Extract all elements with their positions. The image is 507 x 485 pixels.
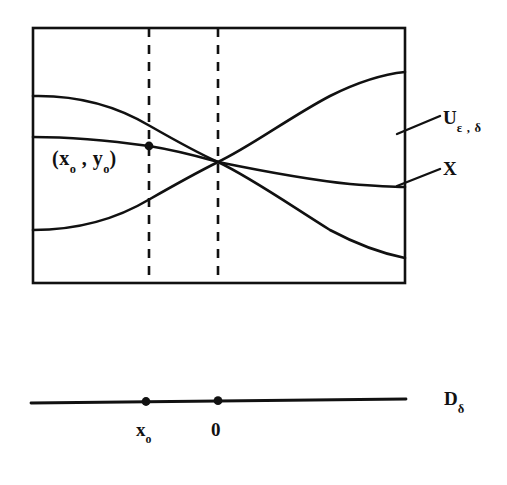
label-point-x0-y0: (xo , yo) bbox=[52, 148, 117, 172]
label-u-subscript: ε , δ bbox=[457, 121, 482, 135]
figure-container: (xo , yo) Uε , δ X Dδ xo 0 bbox=[0, 0, 507, 485]
label-d-base: D bbox=[444, 388, 458, 409]
label-point-x-sub: o bbox=[70, 162, 76, 176]
point-x0-y0 bbox=[145, 142, 154, 151]
axis-point-zero bbox=[214, 396, 223, 405]
label-point-y-base: y bbox=[93, 147, 104, 169]
label-u-epsilon-delta: Uε , δ bbox=[443, 108, 482, 131]
label-x-base: X bbox=[443, 158, 457, 179]
leader-line-u-eps-delta bbox=[397, 116, 440, 134]
label-axis-zero: 0 bbox=[211, 420, 221, 439]
figure-drawing bbox=[0, 0, 507, 485]
axis-point-x0 bbox=[142, 397, 151, 406]
label-x-curve: X bbox=[443, 159, 457, 178]
label-d-subscript: δ bbox=[458, 402, 465, 416]
label-axis-x0-base: x bbox=[136, 419, 146, 440]
label-point-y-sub: o bbox=[103, 162, 109, 176]
label-axis-x0-sub: o bbox=[146, 433, 152, 446]
label-point-comma: , bbox=[76, 147, 93, 169]
leader-line-x-curve bbox=[397, 169, 440, 186]
label-u-base: U bbox=[443, 107, 457, 128]
label-axis-zero-base: 0 bbox=[211, 419, 221, 440]
label-d-delta: Dδ bbox=[444, 389, 465, 412]
label-point-close-paren: ) bbox=[110, 147, 117, 169]
label-axis-x0: xo bbox=[136, 420, 152, 444]
label-point-x-base: x bbox=[59, 147, 70, 169]
